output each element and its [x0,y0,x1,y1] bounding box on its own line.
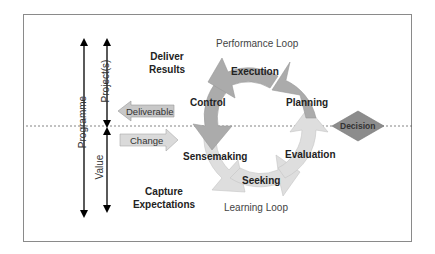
performance-loop-label: Performance Loop [216,39,298,49]
stage-seeking: Seeking [242,176,280,186]
projects-label: Project(s) [101,53,111,109]
stage-execution: Execution [231,67,279,77]
deliverable-label: Deliverable [126,107,174,117]
learning-loop-label: Learning Loop [224,203,288,213]
deliver-results-label: Deliver Results [140,50,194,76]
change-label: Change [130,136,163,146]
programme-label: Programme [78,87,88,157]
decision-label: Decision [340,122,375,131]
stage-control: Control [190,98,226,108]
stage-evaluation: Evaluation [285,150,336,160]
capture-expectations-label: Capture Expectations [128,185,200,211]
stage-sensemaking: Sensemaking [183,152,247,162]
stage-planning: Planning [286,98,328,108]
value-label: Value [95,147,105,187]
